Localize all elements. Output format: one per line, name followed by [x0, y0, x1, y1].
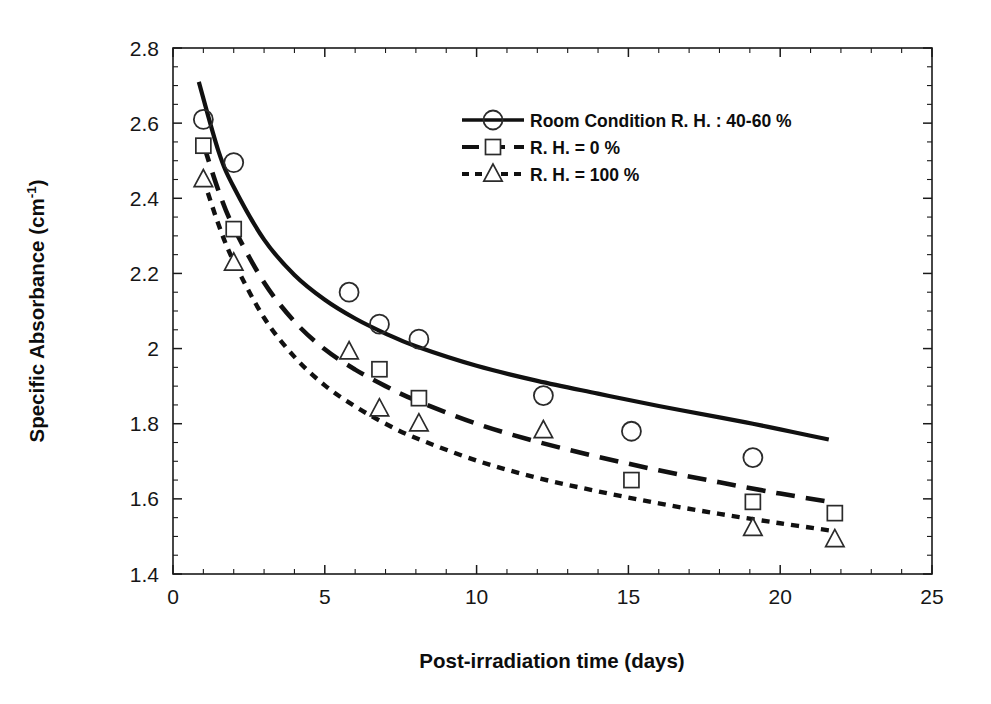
- x-tick-label: 15: [617, 585, 640, 608]
- legend-marker-square: [486, 140, 501, 155]
- legend-entry-2: R. H. = 0 %: [462, 138, 620, 158]
- x-tick-label: 0: [167, 585, 179, 608]
- y-tick-label: 2: [147, 337, 159, 360]
- legend-label: R. H. = 0 %: [530, 138, 620, 158]
- data-point-square: [411, 391, 426, 406]
- data-point-square: [624, 473, 639, 488]
- y-axis-title-suffix: ): [25, 179, 48, 186]
- x-tick-label: 25: [920, 585, 943, 608]
- y-tick-label: 2.2: [130, 262, 159, 285]
- legend-label: R. H. = 100 %: [530, 165, 640, 185]
- y-axis-title: Specific Absorbance (cm-1): [24, 179, 48, 442]
- x-axis-title: Post-irradiation time (days): [419, 649, 684, 672]
- x-tick-label: 5: [319, 585, 331, 608]
- data-point-square: [196, 138, 211, 153]
- y-tick-label: 1.4: [130, 563, 160, 586]
- y-tick-label: 1.8: [130, 412, 159, 435]
- y-tick-label: 2.6: [130, 112, 159, 135]
- data-point-square: [372, 362, 387, 377]
- y-tick-label: 2.8: [130, 37, 159, 60]
- chart-canvas: 0510152025 1.41.61.822.22.42.62.8 Room C…: [0, 0, 991, 704]
- legend-label: Room Condition R. H. : 40-60 %: [530, 111, 792, 131]
- x-tick-label: 10: [465, 585, 488, 608]
- legend-marker-wrap: [486, 140, 501, 155]
- y-axis-title-superscript: -1: [24, 186, 39, 198]
- x-tick-label: 20: [769, 585, 792, 608]
- data-point-square: [226, 222, 241, 237]
- y-tick-label: 1.6: [130, 487, 159, 510]
- y-tick-label: 2.4: [130, 187, 160, 210]
- data-point-square: [745, 494, 760, 509]
- figure-container: 0510152025 1.41.61.822.22.42.62.8 Room C…: [0, 0, 991, 704]
- y-axis-title-main: Specific Absorbance (cm: [25, 198, 48, 442]
- data-point-square: [827, 506, 842, 521]
- y-axis-title-group: Specific Absorbance (cm-1): [24, 179, 48, 442]
